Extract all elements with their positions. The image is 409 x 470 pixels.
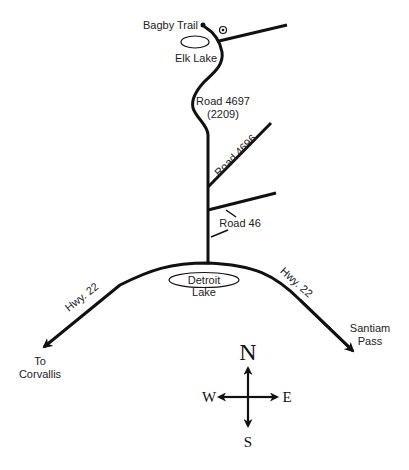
compass-rose: N S W E	[202, 339, 292, 450]
road-4697-label: Road 4697	[196, 95, 250, 107]
compass-east: E	[282, 389, 291, 405]
pass-label: Pass	[358, 335, 383, 347]
hwy-22-east-label: Hwy. 22	[278, 265, 315, 300]
road-46-east-branch	[208, 193, 276, 210]
compass-west: W	[202, 389, 217, 405]
elk-lake-shape	[181, 36, 209, 48]
to-label: To	[34, 355, 46, 367]
santiam-label: Santiam	[350, 322, 390, 334]
destination-target-center-icon	[222, 29, 225, 32]
detroit-label: Detroit	[188, 274, 220, 286]
highway-22-east-arrow	[300, 300, 353, 351]
road-46-tick	[226, 210, 236, 217]
hwy-22-west-label: Hwy. 22	[63, 280, 101, 313]
trailhead-dot-icon	[201, 23, 206, 28]
road-4696-label: Road 4696	[212, 132, 259, 179]
road-4697-alt-label: (2209)	[207, 108, 239, 120]
corvallis-label: Corvallis	[19, 368, 62, 380]
lake-label: Lake	[192, 286, 216, 298]
bagby-branch-road	[219, 25, 287, 41]
road-46-tick	[211, 230, 228, 237]
trail-map: Bagby Trail Elk Lake Road 4697 (2209) Ro…	[0, 0, 409, 470]
bagby-trail-label: Bagby Trail	[143, 19, 198, 31]
compass-south: S	[244, 434, 252, 450]
elk-lake-label: Elk Lake	[175, 52, 217, 64]
compass-north: N	[239, 339, 256, 365]
road-46-label: Road 46	[219, 217, 261, 229]
